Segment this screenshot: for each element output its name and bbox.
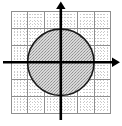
coordinate-plane-graph: [0, 0, 122, 126]
figure-container: [0, 0, 122, 126]
